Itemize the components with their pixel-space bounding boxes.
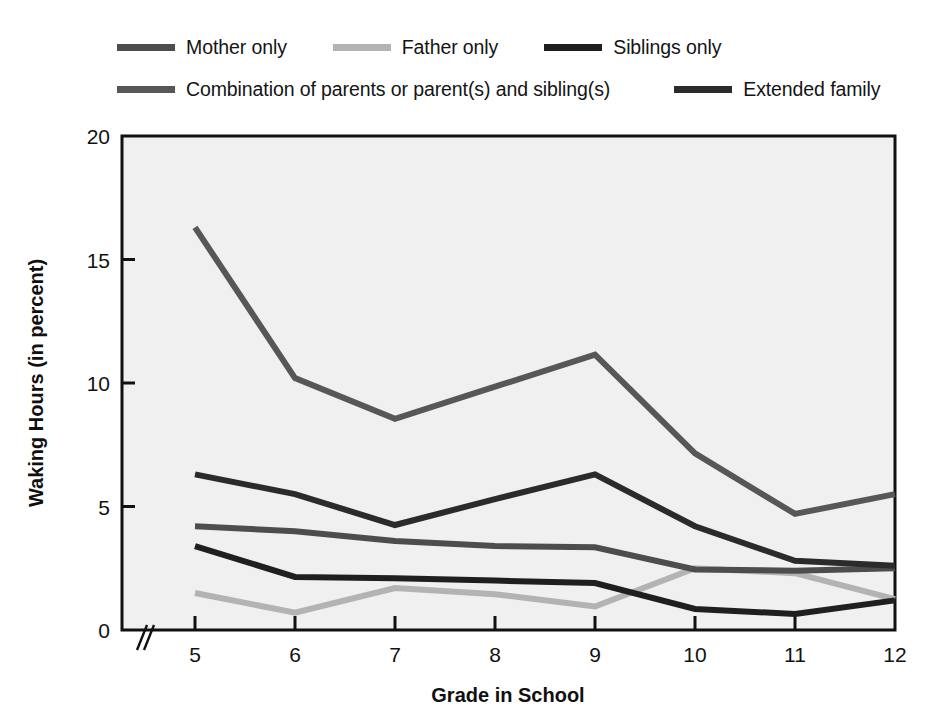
y-tick-label: 20	[87, 125, 110, 148]
x-axis-tick-labels: 56789101112	[189, 643, 907, 666]
y-axis-tick-labels: 05101520	[87, 125, 110, 642]
x-tick-label: 12	[883, 643, 906, 666]
x-tick-label: 6	[289, 643, 301, 666]
y-tick-label: 5	[98, 496, 110, 519]
y-tick-label: 15	[87, 249, 110, 272]
x-tick-label: 10	[683, 643, 706, 666]
x-tick-label: 11	[784, 643, 806, 666]
x-tick-label: 7	[389, 643, 401, 666]
x-tick-label: 9	[589, 643, 601, 666]
line-chart-svg: 05101520 56789101112 Waking Hours (in pe…	[0, 0, 947, 728]
y-axis-title: Waking Hours (in percent)	[25, 259, 47, 507]
x-tick-label: 8	[489, 643, 501, 666]
y-tick-label: 0	[98, 619, 110, 642]
x-axis-title: Grade in School	[431, 684, 584, 706]
plot-area: 05101520 56789101112 Waking Hours (in pe…	[0, 0, 947, 728]
x-tick-label: 5	[189, 643, 201, 666]
chart-figure: Mother only Father only Siblings only Co…	[0, 0, 947, 728]
y-tick-label: 10	[87, 372, 110, 395]
